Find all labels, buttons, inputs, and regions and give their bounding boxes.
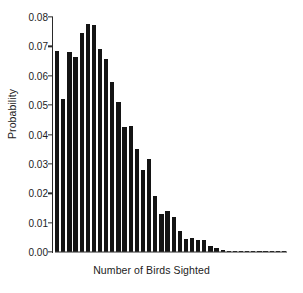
x-axis-baseline — [55, 251, 287, 253]
bar — [165, 211, 169, 252]
bar — [61, 99, 65, 252]
y-tick-mark — [48, 16, 53, 17]
y-tick-label: 0.05 — [16, 100, 48, 111]
bar — [141, 170, 145, 252]
bar — [153, 196, 157, 252]
y-axis-tick-labels: 0.000.010.020.030.040.050.060.070.08 — [16, 0, 48, 293]
y-tick-label: 0.02 — [16, 188, 48, 199]
bar — [55, 51, 59, 252]
bar — [92, 25, 96, 252]
bar — [129, 126, 133, 252]
probability-histogram-figure: Probability 0.000.010.020.030.040.050.06… — [0, 0, 303, 293]
y-tick-mark — [48, 251, 53, 252]
bar — [190, 238, 194, 252]
y-tick-mark — [48, 104, 53, 105]
bar — [178, 231, 182, 252]
bar — [122, 127, 126, 252]
y-tick-mark — [48, 46, 53, 47]
y-tick-label: 0.00 — [16, 247, 48, 258]
y-tick-mark — [48, 134, 53, 135]
plot-area — [55, 17, 288, 252]
bar — [172, 217, 176, 252]
x-axis-title: Number of Birds Sighted — [0, 264, 303, 276]
y-tick-label: 0.06 — [16, 70, 48, 81]
y-tick-mark — [48, 193, 53, 194]
y-tick-label: 0.07 — [16, 41, 48, 52]
bar — [116, 102, 120, 252]
bar — [73, 57, 77, 252]
y-tick-label: 0.04 — [16, 129, 48, 140]
bar — [98, 49, 102, 252]
bar — [135, 149, 139, 252]
bar — [67, 52, 71, 252]
bar — [147, 159, 151, 252]
bar — [80, 33, 84, 252]
bar — [86, 24, 90, 252]
y-tick-mark — [48, 222, 53, 223]
y-tick-label: 0.01 — [16, 217, 48, 228]
y-tick-label: 0.08 — [16, 12, 48, 23]
y-tick-mark — [48, 163, 53, 164]
bar — [104, 59, 108, 252]
bar — [159, 214, 163, 252]
y-tick-label: 0.03 — [16, 158, 48, 169]
bar — [110, 82, 114, 252]
y-tick-mark — [48, 75, 53, 76]
